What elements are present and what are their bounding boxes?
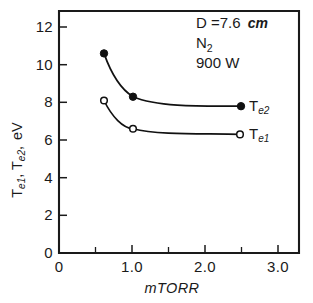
svg-text:Te1: Te1	[249, 125, 269, 144]
axis-box	[59, 11, 299, 253]
y-axis-title-t1: T	[9, 189, 25, 198]
x-ticklabel-3: 3.0	[267, 258, 289, 275]
data-point-te2-0	[100, 50, 107, 57]
data-point-te1-2	[237, 131, 244, 138]
annotation-diameter-unit: cm	[248, 15, 268, 31]
y-ticklabel-2: 2	[44, 206, 53, 223]
chart-svg: 0 2 4 6 8 10 12 0 1.0 2.0 3.0 mTORR	[0, 0, 313, 303]
x-ticklabel-2: 2.0	[194, 258, 216, 275]
series-markers-te1	[101, 97, 244, 138]
y-axis-title-comma2: ,	[9, 146, 25, 150]
y-axis-title-sub1: e1	[16, 178, 27, 189]
data-point-te2-2	[237, 103, 244, 110]
x-axis-title: mTORR	[145, 280, 200, 296]
svg-text:Te2: Te2	[249, 97, 270, 116]
annotation-diameter: D =7.6 cm	[196, 14, 268, 31]
series-label-te2: Te2	[249, 97, 270, 116]
series-label-te1-sub: e1	[258, 133, 269, 144]
series-label-te1: Te1	[249, 125, 269, 144]
svg-text:Te1, Te2,eV: Te1, Te2,eV	[9, 122, 27, 198]
y-ticklabel-6: 6	[44, 131, 53, 148]
y-axis-title-t2: T	[9, 161, 25, 170]
x-axis-ticks	[59, 245, 278, 253]
data-point-te1-1	[130, 125, 137, 132]
data-point-te1-0	[101, 97, 108, 104]
y-axis-title-units: eV	[9, 122, 25, 140]
annotation-gas-base: N	[196, 34, 207, 51]
y-ticklabel-8: 8	[44, 93, 53, 110]
annotation-diameter-base: D =7.6	[196, 14, 245, 31]
annotation-gas-sub: 2	[207, 42, 213, 54]
annotation-power: 900 W	[196, 54, 240, 71]
x-ticklabel-1: 1.0	[121, 258, 143, 275]
y-ticklabel-4: 4	[44, 169, 53, 186]
plot-frame	[59, 11, 299, 253]
y-ticklabel-0: 0	[44, 244, 53, 261]
x-ticklabel-0: 0	[55, 258, 64, 275]
annotation-block: D =7.6 cm N2 900 W	[196, 14, 268, 71]
x-axis-ticklabels: 0 1.0 2.0 3.0	[55, 258, 289, 275]
y-axis-title-sub2: e2	[16, 150, 27, 162]
series-label-te2-sub: e2	[258, 105, 270, 116]
y-ticklabel-10: 10	[36, 56, 53, 73]
y-axis-title-comma1: ,	[9, 170, 25, 178]
chart-figure: 0 2 4 6 8 10 12 0 1.0 2.0 3.0 mTORR	[0, 0, 313, 303]
y-ticklabel-12: 12	[36, 18, 53, 35]
y-axis-title: Te1, Te2,eV	[9, 122, 27, 198]
series-label-te2-base: T	[249, 97, 258, 114]
data-point-te2-1	[129, 93, 136, 100]
annotation-gas: N2	[196, 34, 213, 54]
y-axis-ticks	[59, 27, 67, 253]
y-axis-ticklabels: 0 2 4 6 8 10 12	[36, 18, 53, 261]
series-label-te1-base: T	[249, 125, 258, 142]
